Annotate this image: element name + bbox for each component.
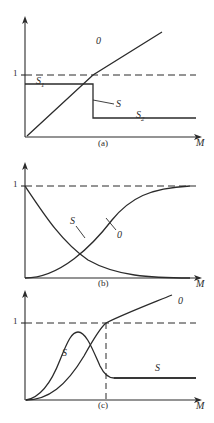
x-axis-label: M bbox=[196, 138, 204, 148]
y-tick-label: 1 bbox=[13, 317, 18, 326]
label-S1: S1 bbox=[36, 76, 44, 89]
series-S-step bbox=[25, 84, 196, 118]
three-panel-figure: 1 S1 S2 S 0 M (a) 1 bbox=[0, 0, 214, 423]
panel-caption: (a) bbox=[98, 139, 108, 148]
panel-caption: (b) bbox=[98, 279, 109, 288]
panel-a-plot bbox=[0, 0, 214, 150]
label-curve-S: S bbox=[70, 216, 75, 226]
series-S-bump bbox=[26, 332, 196, 400]
panel-c: 1 0 S S M (c) bbox=[0, 290, 214, 423]
y-tick-label: 1 bbox=[13, 69, 18, 78]
label-S-leader: S bbox=[116, 99, 121, 109]
label-S2: S2 bbox=[136, 110, 144, 123]
panel-a: 1 S1 S2 S 0 M (a) bbox=[0, 0, 214, 150]
y-tick-label: 1 bbox=[13, 180, 18, 189]
leader-line-S bbox=[93, 100, 114, 104]
label-curve-0: 0 bbox=[96, 36, 101, 46]
leader-line-S bbox=[76, 226, 85, 238]
series-0-rising bbox=[25, 186, 190, 278]
leader-line-0 bbox=[106, 218, 116, 230]
panel-b: 1 0 S M (b) bbox=[0, 150, 214, 290]
label-curve-0: 0 bbox=[178, 296, 183, 306]
label-curve-0: 0 bbox=[117, 230, 122, 240]
panel-b-plot bbox=[0, 150, 214, 290]
label-curve-S-peak: S bbox=[62, 348, 67, 358]
label-curve-S-plateau: S bbox=[155, 363, 160, 373]
x-axis-label: M bbox=[196, 401, 204, 411]
panel-caption: (c) bbox=[98, 401, 108, 410]
x-axis-label: M bbox=[196, 279, 204, 289]
series-S-decaying bbox=[25, 186, 190, 278]
